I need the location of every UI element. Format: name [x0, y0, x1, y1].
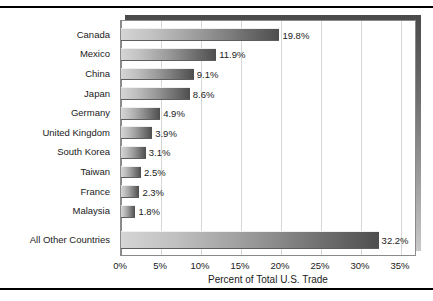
category-label-germany: Germany — [0, 107, 115, 118]
category-label-canada: Canada — [0, 28, 115, 39]
bar-row: 11.9% — [121, 48, 415, 61]
category-label-china: China — [0, 68, 115, 79]
category-label-united-kingdom: United Kingdom — [0, 126, 115, 137]
bar-mexico — [121, 48, 216, 61]
category-axis-labels: CanadaMexicoChinaJapanGermanyUnited King… — [0, 20, 115, 256]
bar-value-label: 9.1% — [194, 68, 219, 79]
bar-value-label: 1.8% — [135, 206, 160, 217]
x-tick-5%: 5% — [153, 260, 167, 271]
bar-japan — [121, 87, 190, 100]
bar-row: 2.5% — [121, 166, 415, 179]
bar-row: 9.1% — [121, 68, 415, 81]
bar-value-label: 2.5% — [141, 166, 166, 177]
bar-canada — [121, 28, 279, 41]
bar-malaysia — [121, 205, 135, 218]
x-axis-tick-labels: 0%5%10%15%20%25%30%35% — [120, 260, 416, 274]
bar-row: 3.9% — [121, 126, 415, 139]
top-rule — [0, 6, 433, 8]
bar-united-kingdom — [121, 126, 152, 139]
bar-value-label: 19.8% — [279, 29, 309, 40]
bar-taiwan — [121, 166, 141, 179]
category-label-france: France — [0, 185, 115, 196]
bar-china — [121, 68, 194, 81]
bar-south-korea — [121, 146, 146, 159]
bottom-rule — [0, 288, 433, 290]
bar-row: 2.3% — [121, 185, 415, 198]
category-label-japan: Japan — [0, 87, 115, 98]
category-label-malaysia: Malaysia — [0, 205, 115, 216]
bar-value-label: 3.1% — [146, 147, 171, 158]
x-tick-25%: 25% — [310, 260, 329, 271]
x-tick-10%: 10% — [190, 260, 209, 271]
bar-value-label: 8.6% — [190, 88, 215, 99]
chart-figure: CanadaMexicoChinaJapanGermanyUnited King… — [0, 0, 433, 301]
bar-value-label: 11.9% — [216, 49, 245, 60]
bar-value-label: 4.9% — [160, 108, 185, 119]
bar-rows: 19.8%11.9%9.1%8.6%4.9%3.9%3.1%2.5%2.3%1.… — [121, 21, 415, 255]
bar-germany — [121, 107, 160, 120]
category-label-all-other-countries: All Other Countries — [0, 234, 115, 245]
x-tick-15%: 15% — [230, 260, 249, 271]
bar-row: 1.8% — [121, 205, 415, 218]
x-tick-20%: 20% — [270, 260, 289, 271]
category-label-taiwan: Taiwan — [0, 166, 115, 177]
x-axis-title: Percent of Total U.S. Trade — [120, 274, 416, 285]
x-tick-0%: 0% — [113, 260, 127, 271]
bar-row: 32.2% — [121, 231, 415, 250]
bar-all-other-countries — [121, 231, 379, 250]
plot-area: 19.8%11.9%9.1%8.6%4.9%3.9%3.1%2.5%2.3%1.… — [120, 20, 416, 256]
x-tick-35%: 35% — [390, 260, 409, 271]
bar-row: 19.8% — [121, 28, 415, 41]
bar-value-label: 3.9% — [152, 127, 177, 138]
bar-value-label: 32.2% — [379, 234, 409, 245]
bar-value-label: 2.3% — [139, 186, 164, 197]
category-label-mexico: Mexico — [0, 48, 115, 59]
bar-france — [121, 185, 139, 198]
bar-row: 4.9% — [121, 107, 415, 120]
bar-row: 8.6% — [121, 87, 415, 100]
x-tick-30%: 30% — [350, 260, 369, 271]
bar-row: 3.1% — [121, 146, 415, 159]
category-label-south-korea: South Korea — [0, 146, 115, 157]
bar-chart: CanadaMexicoChinaJapanGermanyUnited King… — [0, 12, 433, 284]
